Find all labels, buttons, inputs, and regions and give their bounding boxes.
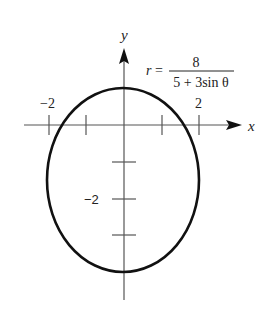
equation-numerator: 8 <box>193 55 200 70</box>
y-tick-label-neg2: −2 <box>84 192 99 207</box>
x-tick-label-neg2: −2 <box>40 96 55 111</box>
equation-denominator: 5 + 3sin θ <box>173 75 229 90</box>
equation: r = 8 5 + 3sin θ <box>146 55 234 90</box>
x-axis-label: x <box>247 118 255 134</box>
polar-graph: y x −2 2 −2 r = 8 5 + 3sin θ <box>0 0 273 315</box>
x-tick-label-2: 2 <box>195 96 202 111</box>
ellipse-curve <box>47 88 199 272</box>
y-axis-label: y <box>119 27 128 43</box>
equation-lhs: r = <box>146 63 163 78</box>
